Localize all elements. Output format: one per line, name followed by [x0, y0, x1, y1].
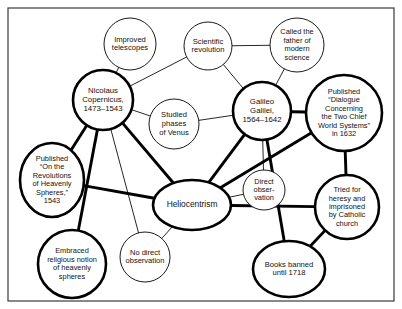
node-label-no-direct-observation: No directobservation [126, 248, 165, 266]
node-label-direct-observation: Directobser-vation [254, 177, 275, 203]
node-books-banned[interactable]: Books banneduntil 1718 [253, 241, 325, 297]
edge-published-dialogue-to-tried-for-heresy [345, 151, 346, 175]
diagram-canvas: ImprovedtelescopesScientificrevolutionCa… [0, 0, 402, 309]
edge-nicolaus-copernicus-to-studied-phases-of-venus [131, 110, 150, 116]
edge-books-banned-to-tried-for-heresy [310, 230, 325, 246]
node-layer: ImprovedtelescopesScientificrevolutionCa… [20, 18, 382, 298]
concept-map: ImprovedtelescopesScientificrevolutionCa… [0, 0, 402, 309]
node-galileo-galilei[interactable]: GalileoGalilei,1564–1642 [233, 82, 291, 140]
node-label-studied-phases-of-venus: Studiedphasesof Venus [159, 110, 189, 137]
node-direct-observation[interactable]: Directobser-vation [243, 170, 285, 210]
node-scientific-revolution[interactable]: Scientificrevolution [184, 22, 232, 70]
node-studied-phases-of-venus[interactable]: Studiedphasesof Venus [149, 99, 199, 149]
edge-nicolaus-copernicus-to-no-direct-observation [111, 129, 139, 233]
node-label-nicolaus-copernicus: NicolausCopernicus,1473–1543 [82, 86, 124, 113]
edge-scientific-revolution-to-galileo-galilei [223, 64, 243, 88]
node-nicolaus-copernicus[interactable]: NicolausCopernicus,1473–1543 [73, 70, 133, 130]
edge-published-on-revolutions-to-heliocentrism [84, 186, 155, 199]
edge-studied-phases-of-venus-to-galileo-galilei [199, 115, 234, 120]
edge-galileo-galilei-to-direct-observation [263, 140, 264, 170]
edge-heliocentrism-to-direct-observation [229, 194, 243, 197]
node-label-scientific-revolution: Scientificrevolution [192, 37, 225, 55]
node-tried-for-heresy[interactable]: Tried forheresy andimprisonedby Catholic… [315, 175, 379, 239]
node-improved-telescopes[interactable]: Improvedtelescopes [104, 18, 156, 70]
node-embraced-religious-notion[interactable]: Embracedreligious notionof heavenlyspher… [38, 230, 106, 298]
node-father-of-modern-science[interactable]: Called thefather ofmodernscience [270, 18, 324, 72]
node-published-on-revolutions[interactable]: Published“On theRevolutionsof HeavenlySp… [20, 143, 84, 217]
edge-nicolaus-copernicus-to-published-on-revolutions [71, 125, 87, 150]
node-heliocentrism[interactable]: Heliocentrism [153, 180, 231, 230]
node-no-direct-observation[interactable]: No directobservation [120, 232, 170, 282]
edge-father-of-modern-science-to-galileo-galilei [276, 69, 285, 86]
node-label-heliocentrism: Heliocentrism [167, 199, 218, 209]
node-published-dialogue[interactable]: Published“DialogueConcerningthe Two Chie… [306, 75, 382, 151]
edge-heliocentrism-to-no-direct-observation [162, 227, 173, 239]
node-label-father-of-modern-science: Called thefather ofmodernscience [280, 27, 313, 61]
node-label-improved-telescopes: Improvedtelescopes [112, 35, 149, 53]
